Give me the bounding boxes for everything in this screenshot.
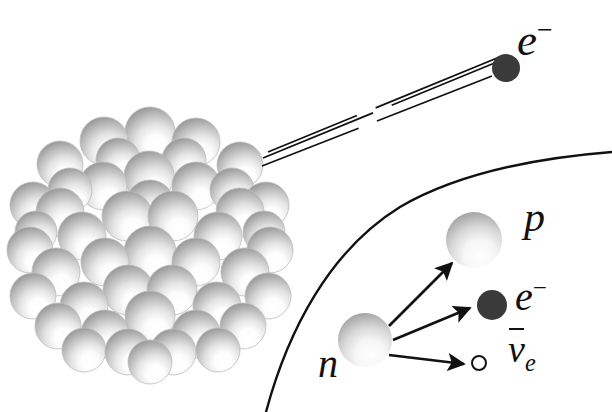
proton-sphere [446, 212, 502, 268]
label-nu-overbar: ν [508, 330, 525, 368]
label-neutron: n [318, 344, 338, 384]
emitted-electron [492, 54, 520, 82]
label-emitted-electron: e− [517, 16, 553, 63]
label-e-base: e [517, 15, 537, 65]
nucleon-sphere [128, 340, 172, 384]
arrow-to-proton [389, 263, 452, 326]
trajectory-line [392, 62, 497, 105]
label-e-superscript: − [537, 14, 553, 45]
trajectory-line [377, 76, 492, 121]
nucleon-sphere [196, 328, 240, 372]
label-antineutrino: νe [508, 330, 536, 375]
label-inset-electron: e− [515, 276, 547, 317]
inset-antineutrino [472, 356, 486, 370]
neutron-sphere [338, 313, 392, 367]
label-e-inset-superscript: − [533, 274, 547, 301]
trajectory-line [376, 56, 502, 108]
label-proton: p [524, 196, 545, 238]
figure-canvas: e− p e− νe n [0, 0, 612, 412]
trajectory-line [263, 113, 373, 158]
label-p-base: p [524, 194, 545, 240]
label-nu-base: ν [508, 328, 525, 370]
arrow-to-electron [393, 308, 470, 340]
arrow-to-antineutrino [389, 355, 464, 364]
electron-trajectory [262, 56, 502, 166]
decay-arrows [389, 263, 470, 364]
label-n-base: n [318, 341, 338, 386]
inset-electron [477, 290, 507, 320]
nucleon-sphere [62, 328, 106, 372]
label-e-inset-base: e [515, 274, 533, 319]
label-nu-subscript: e [525, 349, 536, 376]
atomic-nucleus [7, 107, 293, 384]
